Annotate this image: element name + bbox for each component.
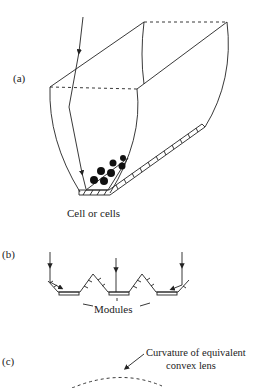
cell: [119, 163, 126, 170]
lens-pointer-arrow: [126, 354, 144, 368]
cell: [110, 160, 117, 167]
panel-c-label: (c): [2, 355, 15, 368]
cell: [90, 176, 98, 184]
front-rim: [50, 87, 137, 89]
cell: [97, 167, 105, 175]
modules-caption: Modules: [94, 303, 133, 315]
front-right-top-edge: [137, 22, 227, 89]
front-left-top-edge: [50, 22, 144, 87]
light-ray-reflected: [69, 52, 82, 173]
panel-b-label: (b): [2, 248, 15, 261]
right-wall-curve: [110, 89, 138, 193]
mirror-hatching: [50, 278, 186, 288]
reflected-ray-right: [172, 285, 182, 289]
cell-caption: Cell or cells: [67, 207, 120, 219]
base-hatching: [83, 128, 198, 195]
module-profile: [48, 274, 189, 292]
equivalent-lens-curve: [72, 377, 162, 388]
trough-concentrator: [50, 17, 228, 195]
cell: [107, 169, 115, 177]
base-strip: [79, 124, 205, 195]
back-curve: [142, 22, 144, 84]
light-ray-end: [82, 173, 86, 189]
lens-caption-line2: convex lens: [166, 360, 216, 371]
cell: [120, 155, 126, 161]
light-ray-incident: [79, 17, 83, 52]
lens-caption-line1: Curvature of equivalent: [146, 347, 246, 358]
concentrator-diagram: (a): [0, 0, 253, 388]
panel-a-label: (a): [13, 72, 26, 85]
module-array: [48, 252, 189, 306]
cell: [100, 177, 108, 185]
right-outer-curve: [205, 22, 228, 127]
